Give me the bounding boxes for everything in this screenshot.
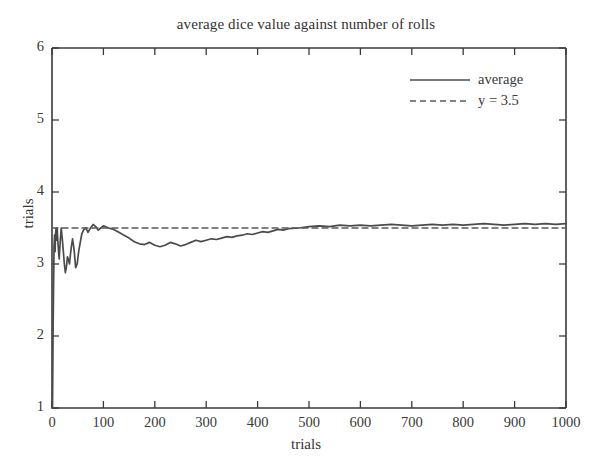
y-tick-label: 1 <box>4 398 44 415</box>
x-tick-label: 1000 <box>536 414 596 431</box>
y-tick-label: 3 <box>4 254 44 271</box>
y-tick-label: 2 <box>4 326 44 343</box>
y-tick-label: 5 <box>4 110 44 127</box>
y-axis-label: trials <box>20 174 37 254</box>
series-line-average <box>53 224 566 408</box>
legend-label-average: average <box>478 71 523 88</box>
y-tick-label: 6 <box>4 38 44 55</box>
legend-label-reference: y = 3.5 <box>478 92 519 109</box>
x-axis-label: trials <box>0 436 612 453</box>
chart-figure: average dice value against number of rol… <box>0 0 612 467</box>
series-group <box>52 224 566 408</box>
legend-line-samples <box>410 80 470 101</box>
